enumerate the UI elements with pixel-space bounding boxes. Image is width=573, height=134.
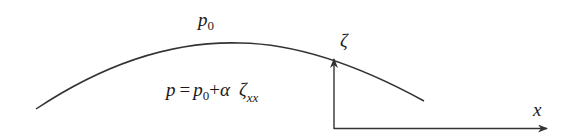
p0-label: p0 [196, 9, 214, 33]
x-axis-label: x [532, 99, 542, 120]
diagram-svg: p0 p=p0+αζxx ζ x [0, 0, 573, 134]
zeta-axis-label: ζ [340, 30, 349, 51]
surface-curve [36, 43, 424, 109]
diagram-canvas: p0 p=p0+αζxx ζ x [0, 0, 573, 134]
pressure-equation: p=p0+αζxx [164, 79, 258, 105]
